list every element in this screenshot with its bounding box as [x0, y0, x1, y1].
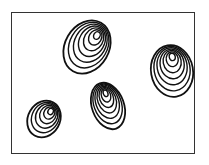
seed-outline [21, 95, 68, 144]
seed-top-center [54, 12, 120, 82]
seed-bottom-left [21, 95, 68, 144]
seed-right [147, 42, 197, 101]
seed-outline [54, 12, 120, 82]
seeds-illustration [0, 0, 209, 165]
seed-center-bottom [85, 78, 131, 134]
seed-ring [169, 53, 176, 61]
seed-ring [60, 15, 117, 75]
